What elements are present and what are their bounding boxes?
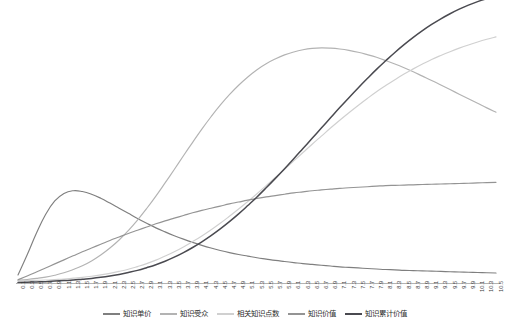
legend-item-1[interactable]: 知识受众 bbox=[160, 310, 208, 317]
line-chart: 0.10.30.50.70.91.11.31.51.71.92.12.32.52… bbox=[0, 0, 510, 329]
series-line-1 bbox=[18, 48, 496, 280]
legend-line-icon bbox=[288, 313, 305, 314]
x-tick-label: 10.5 bbox=[499, 281, 510, 305]
legend-line-icon bbox=[160, 313, 177, 314]
series-line-2 bbox=[18, 37, 496, 281]
legend-item-4[interactable]: 知识累计价值 bbox=[345, 310, 407, 317]
legend-item-2[interactable]: 相关知识点数 bbox=[217, 310, 279, 317]
legend-line-icon bbox=[345, 313, 362, 314]
legend-label: 知识累计价值 bbox=[365, 310, 407, 317]
legend-item-3[interactable]: 知识价值 bbox=[288, 310, 336, 317]
series-line-4 bbox=[18, 0, 496, 282]
legend-label: 知识价值 bbox=[308, 310, 336, 317]
plot-canvas bbox=[0, 0, 510, 290]
legend-label: 相关知识点数 bbox=[237, 310, 279, 317]
legend-label: 知识单价 bbox=[123, 310, 151, 317]
plot-area bbox=[0, 0, 510, 290]
chart-legend: 知识单价知识受众相关知识点数知识价值知识累计价值 bbox=[0, 305, 510, 323]
legend-line-icon bbox=[217, 313, 234, 314]
legend-item-0[interactable]: 知识单价 bbox=[103, 310, 151, 317]
legend-label: 知识受众 bbox=[180, 310, 208, 317]
legend-line-icon bbox=[103, 313, 120, 314]
x-axis-tick-labels: 0.10.30.50.70.91.11.31.51.71.92.12.32.52… bbox=[0, 283, 510, 307]
series-group bbox=[18, 0, 496, 282]
